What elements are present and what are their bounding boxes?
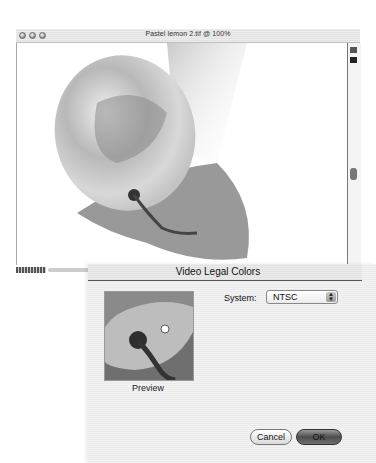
scroll-up-icon[interactable] — [350, 47, 357, 53]
system-select[interactable]: NTSC ▲▼ — [266, 290, 338, 304]
cancel-button[interactable]: Cancel — [250, 429, 292, 445]
hand-cursor-icon — [161, 325, 169, 333]
lemon-painting — [17, 43, 348, 265]
document-title: Pastel lemon 2.tif @ 100% — [16, 30, 360, 37]
preview-thumbnail — [105, 292, 193, 380]
dialog-titlebar[interactable]: Video Legal Colors — [88, 264, 362, 281]
dialog-title: Video Legal Colors — [88, 266, 348, 277]
preview-image[interactable] — [104, 291, 194, 381]
system-select-value: NTSC — [273, 292, 298, 302]
status-tools-icon[interactable] — [16, 267, 46, 273]
system-label: System: — [224, 293, 257, 303]
document-window: Pastel lemon 2.tif @ 100% — [16, 29, 360, 265]
image-canvas[interactable] — [16, 43, 348, 265]
ok-button[interactable]: OK — [296, 429, 342, 445]
scroll-thumb[interactable] — [350, 168, 357, 180]
status-bar — [16, 265, 96, 275]
document-titlebar[interactable]: Pastel lemon 2.tif @ 100% — [16, 29, 360, 43]
vertical-scrollbar[interactable] — [347, 43, 361, 265]
video-legal-colors-dialog: Video Legal Colors Preview System: NTSC … — [88, 264, 376, 463]
preview-label: Preview — [104, 383, 192, 393]
chevron-updown-icon: ▲▼ — [326, 292, 336, 302]
scroll-control-icon[interactable] — [350, 57, 357, 63]
